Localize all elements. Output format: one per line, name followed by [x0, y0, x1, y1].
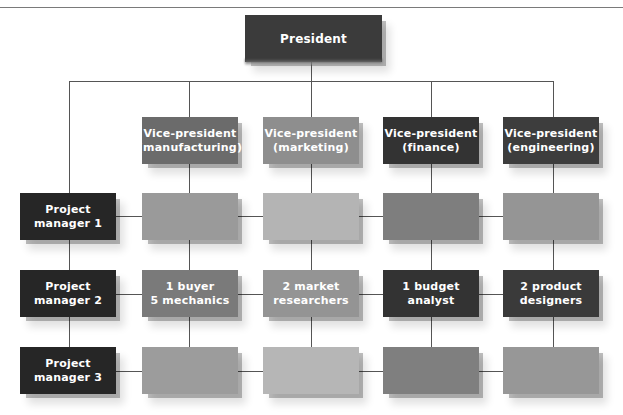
vp-marketing-box: Vice-president (marketing) — [263, 117, 359, 164]
cell-label: 1 buyer 5 mechanics — [150, 280, 229, 308]
cell-pm3-marketing — [263, 347, 359, 394]
cell-pm3-finance — [383, 347, 479, 394]
connector-president-down — [311, 62, 312, 82]
project-manager-2-label: Project manager 2 — [34, 280, 102, 308]
vp-engineering-label: Vice-president (engineering) — [505, 127, 598, 155]
cell-pm2-marketing: 2 market researchers — [263, 270, 359, 317]
vp-finance-box: Vice-president (finance) — [383, 117, 479, 164]
top-rule — [0, 7, 623, 8]
president-box: President — [245, 15, 382, 62]
vp-finance-label: Vice-president (finance) — [385, 127, 478, 155]
project-manager-2-box: Project manager 2 — [20, 270, 116, 317]
project-manager-3-box: Project manager 3 — [20, 347, 116, 394]
project-manager-1-label: Project manager 1 — [34, 203, 102, 231]
cell-pm1-finance — [383, 193, 479, 240]
project-manager-3-label: Project manager 3 — [34, 357, 102, 385]
cell-pm2-finance: 1 budget analyst — [383, 270, 479, 317]
cell-pm2-engineering: 2 product designers — [503, 270, 599, 317]
cell-label: 1 budget analyst — [402, 280, 459, 308]
cell-pm1-engineering — [503, 193, 599, 240]
cell-label: 2 market researchers — [273, 280, 349, 308]
vp-marketing-label: Vice-president (marketing) — [265, 127, 358, 155]
cell-label: 2 product designers — [520, 280, 583, 308]
vp-manufacturing-box: Vice-president (manufacturing) — [142, 117, 238, 164]
vp-engineering-box: Vice-president (engineering) — [503, 117, 599, 164]
president-label: President — [280, 32, 347, 46]
project-manager-1-box: Project manager 1 — [20, 193, 116, 240]
cell-pm2-manufacturing: 1 buyer 5 mechanics — [142, 270, 238, 317]
cell-pm3-manufacturing — [142, 347, 238, 394]
cell-pm1-manufacturing — [142, 193, 238, 240]
cell-pm3-engineering — [503, 347, 599, 394]
cell-pm1-marketing — [263, 193, 359, 240]
vp-manufacturing-label: Vice-president (manufacturing) — [138, 127, 242, 155]
